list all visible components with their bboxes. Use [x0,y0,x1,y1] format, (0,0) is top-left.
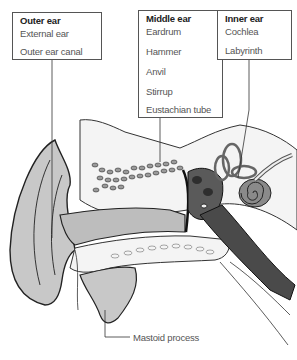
label-mastoid-process: Mastoid process [133,332,199,343]
outer-ear-title: Outer ear [20,16,101,26]
cochlea [239,179,271,207]
middle-ear-label-box: Middle ear Eardrum Hammer Anvil Stirrup … [138,10,223,118]
label-cochlea: Cochlea [225,27,258,37]
hammer [192,176,202,184]
temporal-bone-lower [70,236,230,272]
middle-ear-title: Middle ear [146,14,222,24]
label-external-ear: External ear [20,29,69,39]
label-labyrinth: Labyrinth [225,46,262,56]
mastoid-process [80,267,136,323]
inner-ear-label-box: Inner ear Cochlea Labyrinth [217,10,292,60]
label-stirrup: Stirrup [146,87,173,97]
anvil [203,188,213,196]
outer-ear-label-box: Outer ear External ear Outer ear canal [12,12,102,60]
label-eustachian-tube: Eustachian tube [146,105,211,115]
inner-ear-title: Inner ear [225,14,291,24]
stirrup [201,204,207,208]
label-anvil: Anvil [146,67,166,77]
label-hammer: Hammer [146,47,181,57]
label-outer-ear-canal: Outer ear canal [20,47,82,57]
label-eardrum: Eardrum [146,27,181,37]
